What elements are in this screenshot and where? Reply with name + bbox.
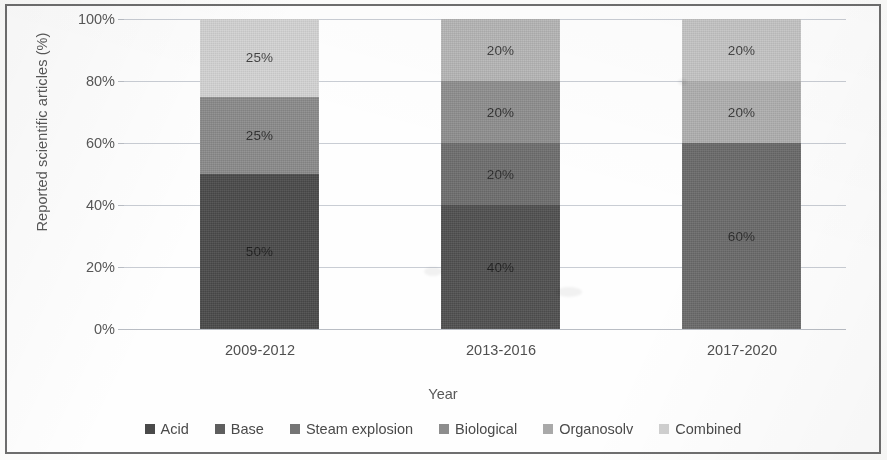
y-tick-label-80: 80% bbox=[86, 73, 115, 89]
legend-item-base[interactable]: Base bbox=[215, 421, 264, 437]
y-tick-label-60: 60% bbox=[86, 135, 115, 151]
legend-label: Base bbox=[231, 421, 264, 437]
bar-segment-label: 20% bbox=[728, 43, 756, 58]
bar-segment-acid[interactable]: 40% bbox=[441, 205, 560, 329]
y-tick-label-40: 40% bbox=[86, 197, 115, 213]
bar-segment-combined[interactable]: 20% bbox=[441, 19, 560, 81]
bar-segment-acid[interactable]: 60% bbox=[682, 143, 801, 329]
legend-item-combined[interactable]: Combined bbox=[659, 421, 741, 437]
bar-segment-label: 20% bbox=[487, 43, 515, 58]
scan-artifact bbox=[424, 267, 442, 276]
bar-segment-label: 50% bbox=[246, 244, 274, 259]
legend-item-acid[interactable]: Acid bbox=[145, 421, 189, 437]
x-category-label-2017-2020: 2017-2020 bbox=[606, 342, 878, 358]
x-axis-title: Year bbox=[7, 386, 879, 402]
legend-swatch-icon bbox=[215, 424, 225, 434]
bar-segment-label: 25% bbox=[246, 50, 274, 65]
y-tick-label-100: 100% bbox=[78, 11, 115, 27]
x-category-label-2013-2016: 2013-2016 bbox=[365, 342, 637, 358]
bar-2013-2016[interactable]: 40% 20% 20% 20% bbox=[441, 19, 560, 329]
bar-2009-2012[interactable]: 50% 25% 25% bbox=[200, 19, 319, 329]
bar-segment-combined[interactable]: 25% bbox=[200, 19, 319, 97]
bar-segment-combined[interactable]: 20% bbox=[682, 19, 801, 81]
chart-legend: Acid Base Steam explosion Biological Org… bbox=[7, 421, 879, 437]
bar-segment-label: 20% bbox=[728, 105, 756, 120]
legend-label: Biological bbox=[455, 421, 517, 437]
bar-segment-acid[interactable]: 50% bbox=[200, 174, 319, 329]
legend-item-organosolv[interactable]: Organosolv bbox=[543, 421, 633, 437]
bar-2017-2020[interactable]: 60% 20% 20% bbox=[682, 19, 801, 329]
chart-screenshot: Reported scientific articles (%) 100% 80… bbox=[0, 0, 887, 460]
bar-segment-biological[interactable]: 20% bbox=[441, 81, 560, 143]
bar-segment-label: 60% bbox=[728, 229, 756, 244]
bar-segment-steam-explosion[interactable]: 20% bbox=[441, 143, 560, 205]
bar-segment-organosolv[interactable]: 20% bbox=[682, 81, 801, 143]
legend-label: Organosolv bbox=[559, 421, 633, 437]
bar-segment-label: 40% bbox=[487, 260, 515, 275]
legend-swatch-icon bbox=[543, 424, 553, 434]
legend-swatch-icon bbox=[439, 424, 449, 434]
legend-label: Steam explosion bbox=[306, 421, 413, 437]
legend-swatch-icon bbox=[145, 424, 155, 434]
bar-segment-label: 25% bbox=[246, 128, 274, 143]
legend-label: Combined bbox=[675, 421, 741, 437]
legend-swatch-icon bbox=[659, 424, 669, 434]
bar-segment-label: 20% bbox=[487, 105, 515, 120]
gridline-0: 0% bbox=[124, 329, 846, 330]
y-axis-title: Reported scientific articles (%) bbox=[34, 12, 50, 252]
chart-frame: Reported scientific articles (%) 100% 80… bbox=[5, 4, 881, 454]
plot-area: 100% 80% 60% 40% 20% 0% bbox=[124, 19, 846, 329]
y-tick-label-20: 20% bbox=[86, 259, 115, 275]
legend-swatch-icon bbox=[290, 424, 300, 434]
x-category-label-2009-2012: 2009-2012 bbox=[124, 342, 396, 358]
legend-item-biological[interactable]: Biological bbox=[439, 421, 517, 437]
y-tick-label-0: 0% bbox=[94, 321, 115, 337]
bar-segment-label: 20% bbox=[487, 167, 515, 182]
legend-item-steam-explosion[interactable]: Steam explosion bbox=[290, 421, 413, 437]
bar-segment-biological[interactable]: 25% bbox=[200, 97, 319, 175]
legend-label: Acid bbox=[161, 421, 189, 437]
